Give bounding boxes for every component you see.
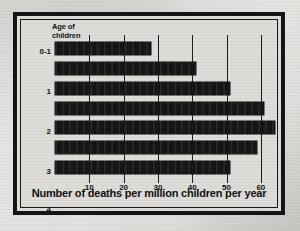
bar-age-5: 5	[55, 141, 257, 154]
scanned-page: Age of children 0-1123456102030405060 Nu…	[0, 0, 300, 231]
bar-age-4: 4	[55, 121, 275, 134]
bar-age-0-1: 0-1	[55, 42, 151, 55]
bar-age-6: 6	[55, 161, 230, 174]
plot-area: 0-1123456102030405060	[55, 39, 278, 177]
y-axis-header: Age of children	[52, 23, 80, 40]
y-axis-label-1: 1	[47, 85, 51, 98]
bar-age-3: 3	[55, 102, 264, 115]
y-axis-label-3: 3	[47, 165, 51, 178]
x-axis-title: Number of deaths per million children pe…	[21, 187, 277, 199]
y-axis-label-2: 2	[47, 125, 51, 138]
figure-inner-border: Age of children 0-1123456102030405060 Nu…	[20, 19, 278, 208]
figure-frame: Age of children 0-1123456102030405060 Nu…	[13, 12, 285, 215]
bar-age-1: 1	[55, 62, 196, 75]
bar-age-2: 2	[55, 82, 230, 95]
y-axis-label-0-1: 0-1	[39, 45, 51, 58]
y-axis-label-4: 4	[47, 203, 51, 216]
